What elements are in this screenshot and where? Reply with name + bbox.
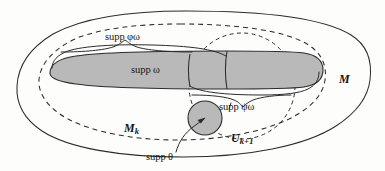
- support-omega-region: [50, 51, 323, 89]
- diagram-canvas: [0, 0, 385, 171]
- label-supp-psi-omega: supp ψω: [219, 102, 254, 113]
- label-manifold-M: M: [339, 73, 350, 85]
- support-partition-diagram: supp φω supp ω supp ψω supp θ M Mk Uk+1: [0, 0, 385, 171]
- label-U-subscript: k+1: [240, 136, 254, 146]
- label-supp-omega: supp ω: [131, 65, 160, 76]
- label-Mk-subscript: k: [135, 126, 139, 136]
- label-compact-set-Mk: Mk: [124, 122, 139, 135]
- label-supp-theta: supp θ: [146, 152, 173, 163]
- label-supp-phi-omega: supp φω: [105, 32, 140, 43]
- label-Mk-base: M: [124, 121, 135, 135]
- label-open-set-Uk1: Uk+1: [231, 132, 254, 145]
- label-U-base: U: [231, 131, 240, 145]
